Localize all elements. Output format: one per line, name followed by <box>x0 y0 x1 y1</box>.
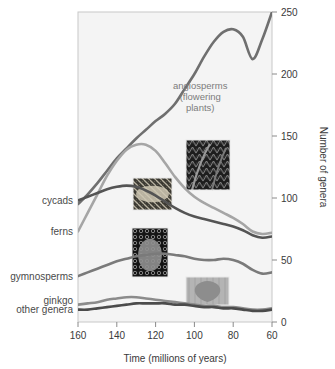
y-tick-label: 100 <box>281 193 298 204</box>
y-axis-title: Number of genera <box>318 127 329 208</box>
series-label-ferns: ferns <box>51 226 73 237</box>
x-tick-label: 160 <box>70 330 87 341</box>
chart-figure: 050100150200250 1601401201008060 cycadsf… <box>0 0 335 369</box>
series-label-other-genera: other genera <box>16 304 73 315</box>
fern-photo <box>186 140 230 190</box>
series-label-gymnosperms: gymnosperms <box>10 271 73 282</box>
x-tick-label: 140 <box>108 330 125 341</box>
x-tick-label: 60 <box>266 330 278 341</box>
annotation-line: angiosperms <box>173 80 228 91</box>
y-tick-label: 250 <box>281 7 298 18</box>
y-tick-label: 0 <box>281 317 287 328</box>
x-tick-label: 120 <box>147 330 164 341</box>
x-tick-label: 80 <box>228 330 240 341</box>
y-tick-label: 150 <box>281 131 298 142</box>
annotation-line: (flowering <box>180 91 221 102</box>
annotation-line: plants) <box>186 102 215 113</box>
x-axis-title: Time (millions of years) <box>124 353 227 364</box>
ginkgo-leaf-photo <box>186 277 229 305</box>
y-tick-label: 200 <box>281 69 298 80</box>
y-tick-label: 50 <box>281 255 293 266</box>
x-tick-label: 100 <box>186 330 203 341</box>
series-label-cycads: cycads <box>42 195 73 206</box>
plot-area <box>78 12 272 322</box>
genera-diversity-chart: 050100150200250 1601401201008060 cycadsf… <box>0 0 335 369</box>
